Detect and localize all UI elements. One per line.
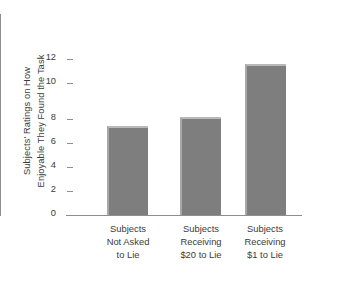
y-tick-label-4: 4 (51, 160, 56, 171)
y-tick-mark-2 (67, 191, 73, 192)
y-axis-title-line-2: Enjoyable They Found the Task (34, 14, 48, 229)
y-tick-label-12: 12 (46, 52, 56, 63)
y-axis-title: Subjects' Ratings on How Enjoyable They … (21, 14, 55, 229)
y-tick-mark-8 (67, 119, 73, 120)
y-tick-mark-4 (67, 167, 73, 168)
bar-chart: Subjects' Ratings on How Enjoyable They … (0, 0, 344, 297)
y-tick-mark-10 (67, 83, 73, 84)
y-tick-label-2: 2 (51, 184, 56, 195)
y-tick-label-10: 10 (46, 76, 56, 87)
y-tick-label-6: 6 (51, 136, 56, 147)
bar-subjects-receiving-1-to-lie[interactable] (245, 64, 286, 215)
y-axis-line (0, 14, 1, 216)
y-tick-label-0: 0 (51, 208, 56, 219)
bar-subjects-not-asked-to-lie[interactable] (107, 126, 148, 215)
y-axis-title-line-1: Subjects' Ratings on How (21, 14, 35, 229)
x-category-label-2-line-1: Subjects (222, 222, 308, 235)
y-tick-mark-12 (67, 59, 73, 60)
bar-subjects-receiving-20-to-lie[interactable] (180, 117, 221, 215)
y-tick-mark-6 (67, 143, 73, 144)
x-category-label-2-line-2: Receiving (222, 235, 308, 248)
y-tick-label-8: 8 (51, 112, 56, 123)
x-category-label-2-line-3: $1 to Lie (222, 248, 308, 261)
x-axis-line (66, 215, 302, 216)
x-category-label-2: Subjects Receiving $1 to Lie (222, 222, 308, 261)
